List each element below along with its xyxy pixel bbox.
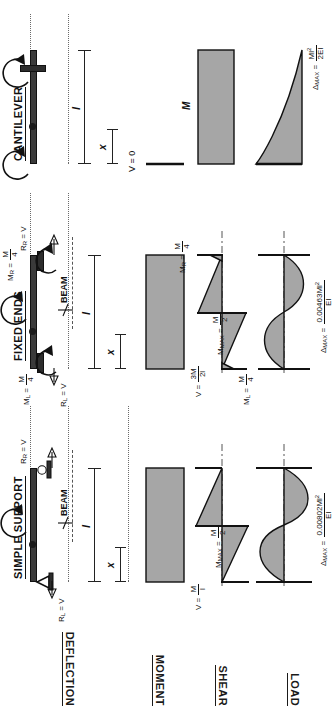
fixed-defl-num: 0.00463Ml	[315, 285, 324, 322]
row-label-load: LOAD	[287, 586, 301, 706]
reaction-left-label: RL = V	[60, 383, 68, 407]
row-label-moment-text: MOMENT	[152, 655, 166, 706]
fixed-defl-sub: MAX	[322, 335, 328, 348]
cant-defl-num: Ml	[307, 51, 316, 59]
x-tick-right	[115, 334, 126, 335]
span-tick-right	[88, 255, 101, 256]
simple-shear-diagram: V = M l	[144, 404, 190, 604]
row-label-moment: MOMENT	[152, 586, 166, 706]
simple-defl-lhs: Δ	[319, 561, 328, 566]
span-dimension-line	[94, 468, 95, 582]
cantilever-shear-diagram: V = 0	[144, 0, 190, 186]
fixed-ml-fraction: M 4	[18, 374, 36, 385]
x-tick-left	[115, 581, 126, 582]
cant-defl-fraction: Ml2 2EI	[306, 45, 326, 61]
fixed-moment-max-label: MMAX = M 2	[212, 314, 230, 356]
fixed-ml-sub: L	[25, 395, 31, 398]
cantilever-moment-plot	[194, 0, 252, 186]
fixed-end-moment-arrow	[4, 52, 34, 86]
cantilever-deflection-plot	[254, 0, 316, 186]
row-label-shear-text: SHEAR	[215, 665, 229, 706]
cant-defl-lhs: Δ	[311, 85, 320, 90]
simple-deflection-plot	[254, 409, 316, 604]
span-dimension-line	[84, 50, 85, 164]
fixed-mer-name: M	[178, 266, 187, 273]
fixed-defl-eq: =	[319, 328, 328, 333]
load-station-dot	[29, 123, 36, 130]
simple-deflection-max-label: ΔMAX = 0.00802Ml2 EI	[314, 492, 334, 566]
simple-load-diagram: M BEAM l x RL	[32, 404, 142, 604]
reaction-left-eq: = V	[57, 598, 66, 610]
fixed-ends-column: ML = M 4 MR = M 4 M	[32, 191, 317, 391]
simple-shear-plot	[144, 414, 190, 604]
cant-defl-sub: MAX	[314, 72, 320, 85]
fixed-mel-sub: L	[245, 395, 251, 398]
fixed-mmax-den: 2	[221, 315, 229, 326]
span-length-label: l	[81, 312, 93, 315]
fixed-mr-eq: =	[6, 263, 15, 268]
simple-defl-fraction: 0.00802Ml2 EI	[314, 493, 334, 538]
x-tick-left	[115, 368, 126, 369]
reaction-right-eq: = V	[19, 439, 28, 451]
reaction-right-arrow	[46, 446, 58, 468]
cantilever-moment-diagram: M	[194, 0, 250, 186]
centerline-symbol-icon	[58, 303, 74, 317]
fixed-ml-name: M	[22, 398, 31, 405]
fixed-mmax-eq: =	[216, 328, 225, 333]
fixed-moment-plot	[194, 196, 252, 391]
x-tick-right	[115, 547, 126, 548]
span-tick-left	[88, 581, 101, 582]
reaction-left-label: RL = V	[58, 598, 66, 622]
simple-support-column: M BEAM l x RL	[32, 404, 317, 604]
cantilever-column: MR = M M l x V = 0	[32, 0, 317, 186]
span-tick-left	[88, 368, 101, 369]
cantilever-deflection-diagram: ΔMAX = Ml2 2EI	[254, 0, 316, 186]
fixed-mmax-lhs: M	[216, 348, 225, 355]
row-label-deflection-text: DEFLECTION	[62, 632, 76, 706]
fixed-defl-lhs: Δ	[319, 348, 328, 353]
fixed-defl-fraction: 0.00463Ml2 EI	[314, 280, 334, 325]
x-dimension-line	[112, 129, 113, 164]
reaction-left-name: R	[57, 616, 66, 622]
cantilever-deflection-max-label: ΔMAX = Ml2 2EI	[306, 44, 326, 90]
centerline-beam-label: BEAM	[60, 277, 69, 304]
fixed-ml-den: 4	[27, 374, 35, 385]
span-length-label: l	[71, 107, 83, 110]
simple-moment-max-eq: =	[214, 541, 223, 546]
simple-moment-max-den: 2	[219, 528, 227, 539]
fixed-mer-den: 4	[183, 241, 191, 252]
fixed-deflection-max-label: ΔMAX = 0.00463Ml2 EI	[314, 279, 334, 353]
fixed-mr-sub: R	[9, 270, 15, 274]
cantilever-shear-plot	[144, 0, 190, 186]
load-station-dot	[29, 328, 36, 335]
fixed-rl-name: R	[59, 401, 68, 407]
centerline-symbol-icon	[58, 516, 74, 530]
fixed-mr-name: M	[6, 274, 15, 281]
fixed-mel-eq: =	[242, 388, 251, 393]
x-dimension-line	[120, 547, 121, 582]
centerline-beam-label: BEAM	[60, 490, 69, 517]
fixed-load-diagram: ML = M 4 MR = M 4 M	[32, 191, 142, 391]
fixed-rl-sub: L	[62, 398, 68, 401]
cant-defl-eq: =	[311, 65, 320, 70]
fixed-shear-plot	[144, 201, 190, 391]
simple-moment-max-sub: MAX	[217, 548, 223, 561]
cantilever-load-diagram: MR = M M l x	[32, 0, 142, 186]
span-dimension-line	[94, 255, 95, 369]
row-label-shear: SHEAR	[215, 586, 229, 706]
cantilever-shear-value-label: V = 0	[128, 151, 137, 172]
simple-deflection-diagram: ΔMAX = 0.00802Ml2 EI	[254, 404, 316, 604]
fixed-mer-sub: R	[181, 262, 187, 266]
reaction-left-arrow	[46, 580, 58, 598]
fixed-mmax-sub: MAX	[219, 335, 225, 348]
fixed-moment-right-label: MR = M 4	[2, 248, 20, 281]
applied-moment-arrow	[2, 502, 32, 536]
reaction-right-name: R	[19, 458, 28, 464]
fixed-moment-right-end-label: MR = M 4	[174, 240, 192, 273]
simple-defl-sub: MAX	[322, 548, 328, 561]
applied-moment-arrow	[4, 144, 34, 178]
x-distance-label: x	[106, 562, 117, 568]
simple-moment-plot	[194, 409, 252, 604]
load-station-dot	[29, 541, 36, 548]
